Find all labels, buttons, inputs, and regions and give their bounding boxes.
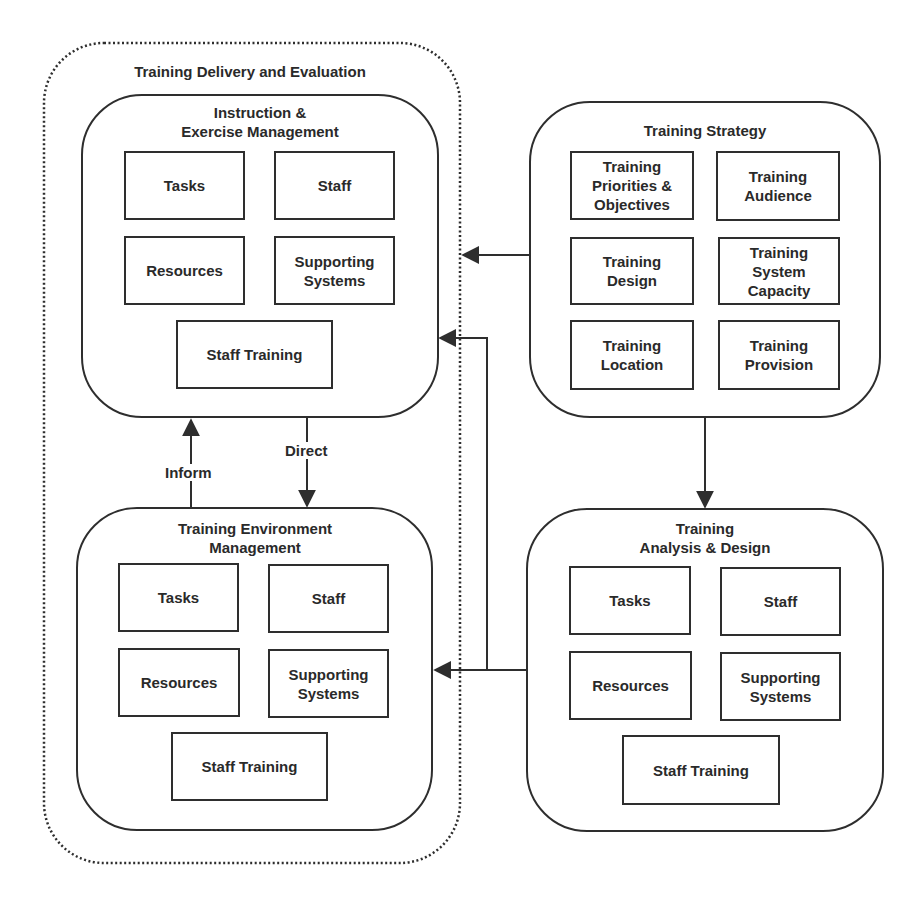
environment-item-staff[interactable]: Staff xyxy=(268,564,389,633)
direct-label: Direct xyxy=(283,442,330,459)
environment-item-supporting-systems[interactable]: Supporting Systems xyxy=(268,649,389,718)
instruction-node-title: Instruction & Exercise Management xyxy=(90,103,430,141)
instruction-item-staff-training[interactable]: Staff Training xyxy=(176,320,333,389)
strategy-item-design[interactable]: Training Design xyxy=(570,237,694,305)
analysis-item-staff-training[interactable]: Staff Training xyxy=(622,735,780,805)
instruction-item-staff[interactable]: Staff xyxy=(274,151,395,220)
strategy-item-audience[interactable]: Training Audience xyxy=(716,151,840,221)
inform-label: Inform xyxy=(163,464,214,481)
analysis-node-title: Training Analysis & Design xyxy=(540,519,870,557)
environment-item-resources[interactable]: Resources xyxy=(118,648,240,717)
instruction-item-supporting-systems[interactable]: Supporting Systems xyxy=(274,236,395,305)
analysis-item-resources[interactable]: Resources xyxy=(569,651,692,720)
analysis-item-supporting-systems[interactable]: Supporting Systems xyxy=(720,652,841,721)
analysis-item-tasks[interactable]: Tasks xyxy=(569,566,691,635)
analysis-item-staff[interactable]: Staff xyxy=(720,567,841,636)
strategy-item-system-capacity[interactable]: Training System Capacity xyxy=(718,237,840,305)
outer-group-title: Training Delivery and Evaluation xyxy=(80,62,420,81)
environment-item-staff-training[interactable]: Staff Training xyxy=(171,732,328,801)
environment-node-title: Training Environment Management xyxy=(85,519,425,557)
strategy-item-priorities-objectives[interactable]: Training Priorities & Objectives xyxy=(570,151,694,220)
strategy-node-title: Training Strategy xyxy=(540,121,870,140)
strategy-item-location[interactable]: Training Location xyxy=(570,320,694,390)
analysis-to-instruction-arrow xyxy=(440,338,487,670)
strategy-item-provision[interactable]: Training Provision xyxy=(718,320,840,390)
environment-item-tasks[interactable]: Tasks xyxy=(118,563,239,632)
instruction-item-tasks[interactable]: Tasks xyxy=(124,151,245,220)
instruction-item-resources[interactable]: Resources xyxy=(124,236,245,305)
